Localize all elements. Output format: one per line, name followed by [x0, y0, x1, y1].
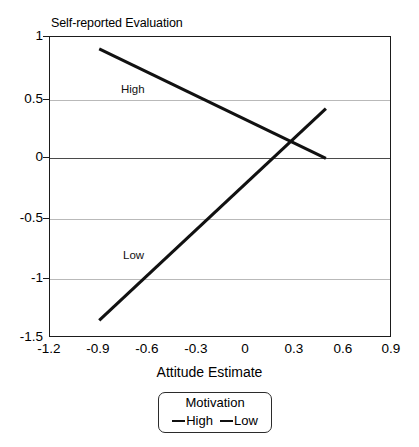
x-tick-label-neg0-9: -0.9	[71, 341, 125, 356]
chart-title: Self-reported Evaluation	[51, 16, 183, 31]
legend-entry-high[interactable]: High	[172, 413, 213, 429]
line-swatch-icon	[172, 420, 185, 423]
plot-area: High Low	[49, 36, 391, 337]
y-tick-label-0: 0	[0, 150, 43, 164]
series-annotation-high: High	[121, 83, 145, 96]
legend-entries: High Low	[159, 413, 271, 429]
chart-figure: Self-reported Evaluation 1 0.5 0 -0.5 -1…	[0, 0, 419, 447]
x-tick-label-neg0-6: -0.6	[120, 341, 174, 356]
y-tick-label-1: 1	[0, 29, 43, 43]
series-plot	[50, 37, 390, 336]
x-tick-label-0-3: 0.3	[267, 341, 321, 356]
series-annotation-low: Low	[123, 249, 144, 262]
line-swatch-icon	[220, 420, 233, 423]
y-tick-label-neg0-5: -0.5	[0, 211, 43, 225]
y-tick-label-0-5: 0.5	[0, 92, 43, 106]
legend-entry-low[interactable]: Low	[220, 413, 258, 429]
x-tick-label-neg1-2: -1.2	[22, 341, 76, 356]
x-axis-title: Attitude Estimate	[0, 364, 419, 381]
legend-title: Motivation	[159, 395, 271, 411]
x-tick-label-0-6: 0.6	[316, 341, 370, 356]
y-tick-label-neg1: -1	[0, 271, 43, 285]
chart-legend: Motivation High Low	[158, 392, 272, 433]
x-tick-label-neg0-3: -0.3	[169, 341, 223, 356]
x-tick-label-0-9: 0.9	[364, 341, 418, 356]
legend-label-high: High	[186, 413, 213, 429]
legend-label-low: Low	[234, 413, 258, 429]
x-tick-label-0: 0	[218, 341, 272, 356]
series-line-low	[99, 109, 326, 321]
